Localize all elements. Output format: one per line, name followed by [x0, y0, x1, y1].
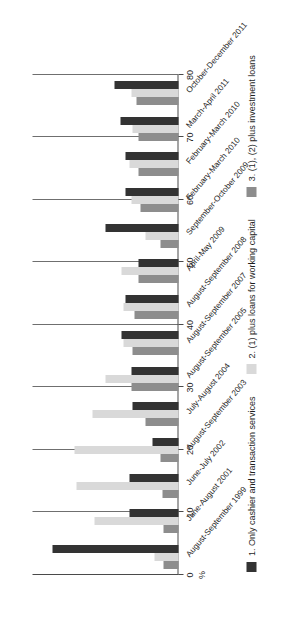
axis-tick-label: 70	[184, 132, 194, 142]
bar	[163, 525, 178, 533]
rotated-figure: 01020304050607080 % August-September 199…	[0, 0, 307, 630]
bar	[129, 474, 178, 482]
bar-group	[32, 75, 178, 111]
bar	[105, 224, 178, 232]
bar-group	[32, 504, 178, 540]
bar	[92, 410, 178, 418]
category-label: October-December 2011	[184, 20, 248, 94]
legend-label: 3. (1), (2) plus investment loans	[246, 55, 256, 181]
bar	[121, 331, 178, 339]
bar	[160, 454, 178, 462]
bar-group	[32, 254, 178, 290]
axis-tick-label: 0	[184, 572, 194, 577]
bar	[125, 152, 178, 160]
bar-group	[32, 396, 178, 432]
bar	[145, 418, 178, 426]
chart-stage: 01020304050607080 % August-September 199…	[0, 0, 307, 630]
bar	[121, 267, 178, 275]
axis-tick	[178, 262, 183, 263]
bar	[123, 303, 178, 311]
bar-group	[32, 289, 178, 325]
axis-tick	[178, 449, 183, 450]
bar	[138, 259, 178, 267]
bar-group	[32, 432, 178, 468]
bar	[123, 339, 178, 347]
bar	[125, 188, 178, 196]
bar-groups	[32, 75, 178, 575]
axis-tick	[178, 74, 183, 75]
bar	[132, 125, 178, 133]
bar	[52, 545, 178, 553]
bar	[140, 204, 178, 212]
axis-ticks	[178, 75, 184, 575]
axis-tick	[178, 574, 183, 575]
bar	[131, 196, 178, 204]
legend-swatch	[246, 562, 256, 572]
bar-group	[32, 539, 178, 575]
plot-area	[32, 75, 178, 575]
bar	[120, 117, 178, 125]
bar	[163, 561, 178, 569]
bar	[132, 402, 178, 410]
legend-label: 2. (1) plus loans for working capital	[246, 219, 256, 358]
legend-item: 1. Only cashier and transaction services	[246, 396, 256, 572]
bar	[131, 89, 178, 97]
legend-swatch	[246, 187, 256, 197]
legend-swatch	[246, 364, 256, 374]
bar	[152, 438, 178, 446]
axis-tick	[178, 324, 183, 325]
axis-tick	[178, 387, 183, 388]
bar-chart-figure: 01020304050607080 % August-September 199…	[0, 0, 307, 630]
bar	[76, 482, 178, 490]
axis-tick	[178, 137, 183, 138]
bar	[131, 383, 178, 391]
bar-group	[32, 182, 178, 218]
bar	[136, 97, 178, 105]
axis-tick	[178, 199, 183, 200]
legend-label: 1. Only cashier and transaction services	[246, 396, 256, 556]
bar	[154, 553, 178, 561]
axis-tick	[178, 512, 183, 513]
bar	[134, 311, 178, 319]
bar	[160, 240, 178, 248]
bar	[138, 133, 178, 141]
bar	[162, 490, 178, 498]
bar-group	[32, 111, 178, 147]
bar	[138, 168, 178, 176]
bar	[94, 517, 178, 525]
chart-legend: 1. Only cashier and transaction services…	[246, 12, 256, 572]
bar-group	[32, 468, 178, 504]
bar-group	[32, 146, 178, 182]
bar	[114, 81, 178, 89]
legend-item: 2. (1) plus loans for working capital	[246, 219, 256, 374]
bar	[132, 347, 178, 355]
bar	[145, 232, 178, 240]
bar-group	[32, 361, 178, 397]
bar	[131, 367, 178, 375]
bar	[129, 160, 178, 168]
bar-group	[32, 218, 178, 254]
bar	[74, 446, 178, 454]
axis-tick-label: 30	[184, 382, 194, 392]
bar	[138, 275, 178, 283]
bar	[129, 509, 178, 517]
bar-group	[32, 325, 178, 361]
legend-item: 3. (1), (2) plus investment loans	[246, 55, 256, 197]
bar	[125, 295, 178, 303]
bar	[105, 375, 178, 383]
